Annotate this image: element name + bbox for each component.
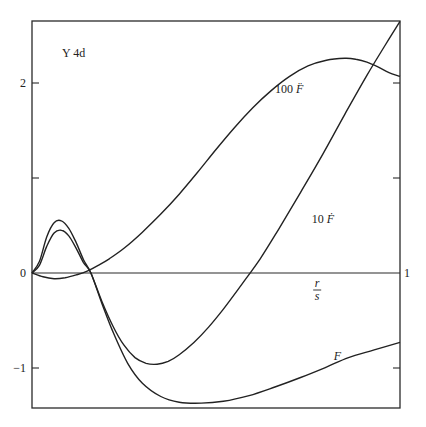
plot-frame (32, 21, 400, 408)
labels: Y 4d F10 Ḟ100 F̈ (62, 46, 342, 363)
curve-f (32, 230, 400, 403)
series-label-100-f-double-dot: 100 F̈ (275, 82, 304, 96)
y-tick-label: −1 (13, 361, 26, 375)
plot-border (32, 21, 400, 408)
curves (32, 21, 400, 403)
series-label-f: F (333, 349, 342, 363)
y-tick-label: 0 (20, 266, 26, 280)
chart-title: Y 4d (62, 46, 85, 60)
axis-ticks: 20−11rs (13, 76, 410, 375)
x-tick-label: 1 (404, 266, 410, 280)
curve-10-f-dot (32, 21, 400, 364)
x-axis-label-numerator: r (315, 276, 320, 290)
chart: 20−11rs Y 4d F10 Ḟ100 F̈ (0, 0, 426, 427)
series-label-10-f-dot: 10 Ḟ (312, 212, 335, 226)
curve-100-f-double-dot (32, 58, 400, 278)
x-axis-label-denominator: s (315, 289, 320, 303)
y-tick-label: 2 (20, 76, 26, 90)
